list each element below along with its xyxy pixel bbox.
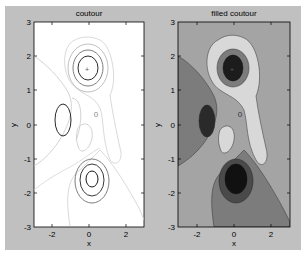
zero-level-label: 0 (94, 110, 99, 119)
filled-zero-label: 0 (238, 110, 243, 119)
svg-text:-1: -1 (168, 155, 176, 164)
svg-text:2: 2 (124, 230, 129, 239)
svg-text:0: 0 (171, 121, 176, 130)
contour-xlabel: x (87, 239, 91, 248)
svg-text:-1: -1 (24, 155, 32, 164)
svg-text:0: 0 (232, 230, 237, 239)
svg-text:1: 1 (171, 86, 176, 95)
svg-text:0: 0 (27, 121, 32, 130)
svg-text:3: 3 (171, 18, 176, 27)
filled-contour-xticks: -2 0 2 (193, 230, 273, 239)
svg-text:-2: -2 (24, 189, 32, 198)
svg-text:-2: -2 (48, 230, 56, 239)
svg-text:-2: -2 (168, 189, 176, 198)
filled-peak-marker: + (230, 66, 234, 72)
filled-contour-yticks: 3 2 1 0 -1 -2 -3 (168, 18, 176, 232)
filled-contour-title: filled coutour (211, 9, 257, 18)
contour-axes (34, 22, 144, 227)
contour-yticks: 3 2 1 0 -1 -2 -3 (24, 18, 32, 232)
svg-text:3: 3 (27, 18, 32, 27)
contour-xticks: -2 0 2 (48, 230, 128, 239)
svg-text:-3: -3 (168, 223, 176, 232)
filled-contour-plot: filled coutour + 0 3 (153, 9, 290, 248)
svg-text:2: 2 (27, 52, 32, 61)
svg-text:1: 1 (27, 86, 32, 95)
contour-plot: coutour + 0 (9, 9, 144, 248)
filled-contour-ylabel: y (153, 123, 162, 127)
filled-regions: + 0 (178, 22, 290, 227)
contour-title: coutour (76, 9, 103, 18)
svg-text:-2: -2 (193, 230, 201, 239)
svg-text:0: 0 (87, 230, 92, 239)
figure-canvas: coutour + 0 (0, 0, 306, 257)
svg-text:-3: -3 (24, 223, 32, 232)
svg-text:2: 2 (171, 52, 176, 61)
filled-contour-xlabel: x (232, 239, 236, 248)
peak-marker: + (85, 66, 89, 73)
svg-text:2: 2 (269, 230, 274, 239)
contour-ylabel: y (9, 123, 18, 127)
